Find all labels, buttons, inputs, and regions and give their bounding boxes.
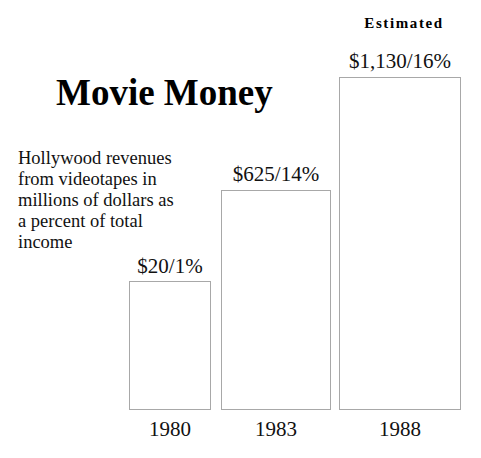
bar-1983-category-label: 1983 (218, 419, 334, 440)
bar-1980-category-label: 1980 (112, 419, 228, 440)
movie-money-chart: Movie Money Hollywood revenues from vide… (0, 0, 481, 458)
bar-1988 (339, 77, 461, 410)
bar-1988-estimated-note: Estimated (340, 16, 468, 31)
bar-1983-value-label: $625/14% (218, 164, 334, 185)
bar-1988-category-label: 1988 (342, 419, 458, 440)
plot-area: $20/1% 1980 $625/14% 1983 Estimated $1,1… (0, 0, 481, 458)
bar-1988-value-label: $1,130/16% (342, 51, 458, 72)
bar-1983 (221, 190, 331, 410)
bar-1980 (129, 281, 211, 410)
bar-1980-value-label: $20/1% (112, 256, 228, 277)
